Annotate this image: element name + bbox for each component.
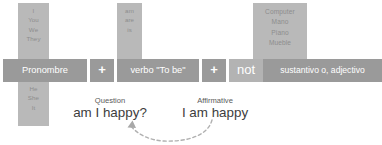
noun-item: Piano (253, 28, 307, 38)
formula-segment-sustantivo-adjectivo: sustantivo o, adjectivo (263, 59, 382, 82)
formula-segment-pronombre: Pronombre (3, 59, 87, 82)
verb-form-item: are (117, 15, 142, 24)
column-verb-forms: am are is (117, 3, 142, 59)
pronoun-item: It (18, 103, 49, 112)
pronoun-item: I (18, 6, 49, 15)
formula-bar: Pronombre + verbo "To be" + not sustanti… (3, 59, 382, 82)
example-label: Question (58, 96, 162, 105)
example-label: Affirmative (163, 96, 267, 105)
formula-segment-not: not (229, 59, 263, 82)
column-pronouns-upper: I You We They (18, 3, 49, 59)
pronoun-item: We (18, 25, 49, 34)
pronoun-item: You (18, 15, 49, 24)
noun-item: Mano (253, 17, 307, 27)
plus-operator-icon: + (90, 59, 114, 82)
verb-form-item: am (117, 6, 142, 15)
curved-dashed-arrow-icon (120, 118, 216, 143)
noun-item: Computer (253, 7, 307, 17)
pronoun-item: She (18, 93, 49, 102)
pronoun-item: They (18, 34, 49, 43)
noun-item: Mueble (253, 38, 307, 48)
pronoun-item: He (18, 84, 49, 93)
plus-operator-icon: + (202, 59, 226, 82)
column-pronouns-lower: He She It (18, 80, 49, 126)
column-nouns: Computer Mano Piano Mueble (253, 3, 307, 59)
verb-form-item: is (117, 25, 142, 34)
formula-segment-verbo-to-be: verbo "To be" (117, 59, 199, 82)
